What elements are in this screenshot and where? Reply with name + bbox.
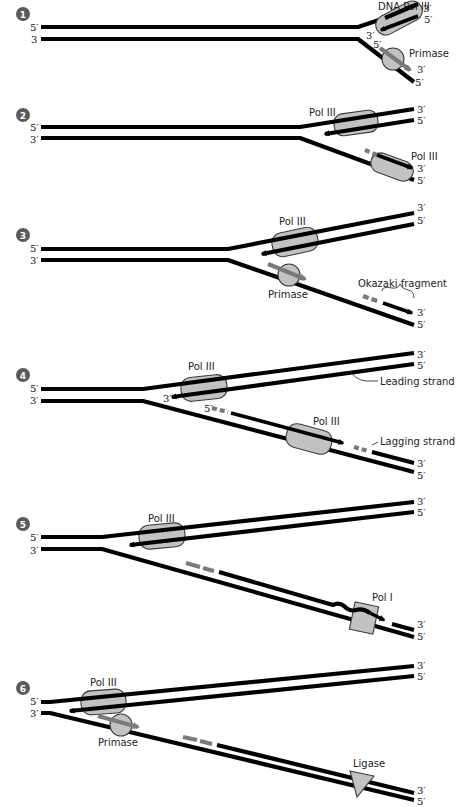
- end-label-left-top: 5′: [30, 696, 39, 707]
- end-label-left-bottom: 3: [31, 34, 37, 45]
- enzyme-label: Pol III: [411, 151, 438, 162]
- enzyme-label: Pol III: [148, 513, 175, 524]
- end-label-left-bottom: 3′: [30, 708, 39, 719]
- pol-iii-leading-enzyme: [138, 522, 186, 550]
- rna-primer-a: [186, 563, 200, 567]
- okazaki-fragment-joined: [217, 745, 414, 793]
- enzyme-label: Pol I: [372, 592, 393, 603]
- end-label: 3′: [417, 349, 426, 360]
- end-label: 3′: [423, 3, 432, 14]
- end-label: 5′: [204, 403, 213, 414]
- end-label: 5′: [417, 319, 426, 330]
- enzyme-label: Pol III: [90, 677, 117, 688]
- end-label: 5′: [417, 631, 426, 642]
- parental-strand-bottom: [41, 39, 414, 82]
- end-label: 5′: [417, 215, 426, 226]
- end-label: 3′: [417, 104, 426, 115]
- end-label-left-top: 5′: [30, 383, 39, 394]
- end-label: 3′: [417, 307, 426, 318]
- step-3: 3 5′ 3′ Pol III Primase Okazaki fragment…: [16, 202, 447, 330]
- parental-strand-bottom: [41, 401, 414, 472]
- end-label: 3′: [417, 163, 426, 174]
- rna-primer-next: [354, 447, 368, 451]
- rna-primer-b: [200, 741, 212, 744]
- step-1: 1 5′ 3 DNA Pol III Primase 3′ 5′ 3′ 5′ 3…: [16, 0, 449, 88]
- lagging-strand-leader: [372, 442, 378, 445]
- enzyme-label: Pol III: [188, 361, 215, 372]
- okazaki-fragment-label: Okazaki fragment: [358, 278, 447, 289]
- end-label: 3′: [417, 458, 426, 469]
- step-6: 6 5′ 3′ Pol III Primase Ligase 3′ 5′ 3′ …: [16, 660, 426, 807]
- lagging-strand-label: Lagging strand: [380, 436, 455, 447]
- pol-i-enzyme: [349, 602, 378, 634]
- end-label: 3′: [417, 785, 426, 796]
- enzyme-label: Pol III: [279, 216, 306, 227]
- end-label: 5′: [417, 796, 426, 807]
- okazaki-fragment: [219, 572, 370, 613]
- lagging-segment: [392, 624, 414, 630]
- rna-primer-b: [203, 568, 214, 571]
- end-label: 5′: [424, 14, 433, 25]
- end-label: 3′: [417, 660, 426, 671]
- step-5: 5 5′ 3′ Pol III Pol I 3′ 5′ 3′ 5′: [16, 496, 426, 642]
- pol-iii-leading-enzyme: [80, 688, 127, 715]
- end-label: 3′: [417, 202, 426, 213]
- parental-strand-bottom: [41, 138, 414, 180]
- end-label-left-bottom: 3′: [30, 255, 39, 266]
- end-label: 5′: [417, 175, 426, 186]
- okazaki-fragment: [383, 303, 412, 313]
- rna-primer: [363, 296, 380, 302]
- end-label: 5′: [417, 115, 426, 126]
- end-label-left-top: 5′: [30, 122, 39, 133]
- step-number: 3: [20, 231, 26, 241]
- enzyme-label: Primase: [98, 737, 138, 748]
- enzyme-label: Ligase: [353, 758, 385, 769]
- parental-strand-top: [41, 213, 414, 249]
- step-number: 2: [20, 111, 26, 121]
- rna-primer: [212, 408, 228, 412]
- step-number: 6: [20, 684, 26, 694]
- end-label: 5′: [417, 507, 426, 518]
- end-label: 3′: [417, 496, 426, 507]
- leading-strand-label: Leading strand: [380, 376, 455, 387]
- end-label: 5′: [417, 470, 426, 481]
- enzyme-label: Pol III: [309, 107, 336, 118]
- dna-replication-diagram: 1 5′ 3 DNA Pol III Primase 3′ 5′ 3′ 5′ 3…: [0, 0, 460, 807]
- end-label: 5′: [415, 77, 424, 88]
- end-label-left-top: 5′: [30, 22, 39, 33]
- end-label: 5′: [417, 360, 426, 371]
- end-label-left-bottom: 3′: [30, 134, 39, 145]
- end-label-left-bottom: 3′: [30, 395, 39, 406]
- enzyme-label: Pol III: [313, 416, 340, 427]
- parental-strand-top: [41, 18, 385, 27]
- step-4: 4 5′ 3′ Pol III Pol III Leading strand L…: [16, 349, 455, 481]
- enzyme-label: Primase: [268, 289, 308, 300]
- end-label-left-top: 5′: [30, 532, 39, 543]
- step-number: 1: [20, 10, 26, 20]
- rna-primer: [365, 150, 377, 155]
- end-label: 5′: [373, 39, 382, 50]
- step-number: 5: [20, 520, 26, 530]
- end-label: 3′: [417, 619, 426, 630]
- parental-strand-bottom: [41, 260, 414, 325]
- enzyme-label: Primase: [409, 48, 449, 59]
- end-label-left-bottom: 3′: [30, 545, 39, 556]
- end-label-left-top: 5′: [30, 243, 39, 254]
- rna-primer-a: [183, 737, 197, 740]
- step-2: 2 5′ 3′ Pol III Pol III 3′ 5′ 3′ 5′: [16, 104, 438, 186]
- end-label: 3′: [163, 393, 172, 404]
- end-label: 3′: [417, 64, 426, 75]
- step-number: 4: [20, 371, 26, 381]
- end-label: 5′: [417, 671, 426, 682]
